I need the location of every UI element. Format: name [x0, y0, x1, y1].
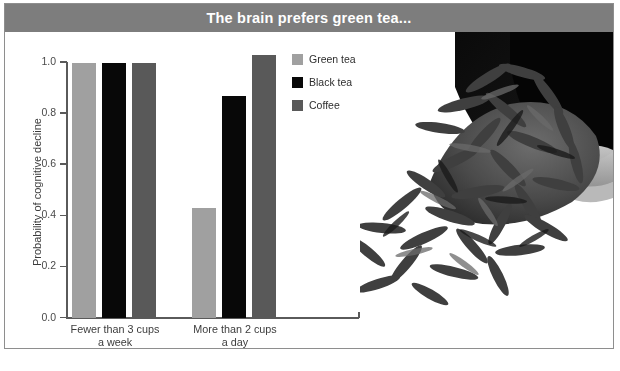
legend-label: Green tea: [309, 53, 356, 65]
legend-item: Green tea: [292, 50, 402, 68]
legend-item: Coffee: [292, 96, 402, 114]
legend-swatch: [292, 77, 303, 88]
page-title: The brain prefers green tea...: [206, 10, 411, 26]
figure-title-bar: The brain prefers green tea...: [5, 4, 613, 32]
chart-legend: Green teaBlack teaCoffee: [292, 50, 402, 119]
legend-item: Black tea: [292, 73, 402, 91]
figure-panel: The brain prefers green tea... 0.00.20.4…: [0, 0, 620, 371]
legend-label: Coffee: [309, 99, 340, 111]
legend-swatch: [292, 100, 303, 111]
legend-label: Black tea: [309, 76, 352, 88]
legend-swatch: [292, 54, 303, 65]
